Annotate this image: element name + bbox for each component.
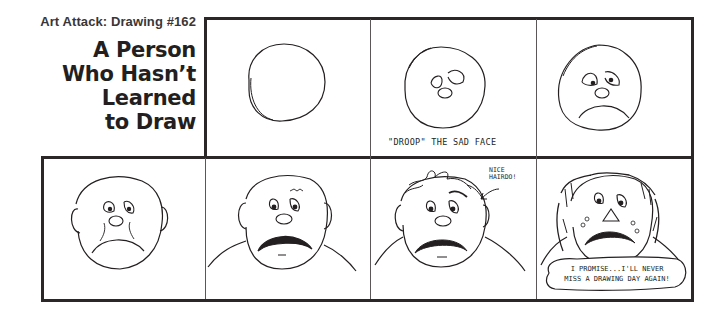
nice-hairdo-speech: NICE HAIRDO! xyxy=(489,167,516,181)
speech-line-2: HAIRDO! xyxy=(489,174,516,181)
headline-line-3: Learned xyxy=(6,86,196,110)
headline-line-1: A Person xyxy=(6,38,196,62)
panel-3 xyxy=(537,20,691,157)
headline: A Person Who Hasn’t Learned to Draw xyxy=(6,38,196,134)
shoulders-mustache-drawing xyxy=(206,159,370,299)
header-kicker: Art Attack: Drawing #162 xyxy=(40,14,196,29)
balloon-line-1: I PROMISE...I'LL NEVER xyxy=(549,264,685,274)
panel-4 xyxy=(44,159,205,299)
panel-5 xyxy=(206,159,370,299)
headline-line-2: Who Hasn’t xyxy=(6,62,196,86)
panel-2: "DROOP" THE SAD FACE xyxy=(371,20,536,157)
panel-6: NICE HAIRDO! xyxy=(371,159,536,299)
sad-face-drawing xyxy=(537,20,691,157)
headline-line-4: to Draw xyxy=(6,110,196,134)
panel-7: I PROMISE...I'LL NEVER MISS A DRAWING DA… xyxy=(537,159,691,299)
bald-head-drawing xyxy=(44,159,205,299)
promise-balloon: I PROMISE...I'LL NEVER MISS A DRAWING DA… xyxy=(549,264,685,284)
circle-drawing xyxy=(207,20,370,157)
balloon-line-2: MISS A DRAWING DAY AGAIN! xyxy=(549,274,685,284)
panel-1 xyxy=(207,20,370,157)
panel-2-caption: "DROOP" THE SAD FACE xyxy=(388,137,496,147)
